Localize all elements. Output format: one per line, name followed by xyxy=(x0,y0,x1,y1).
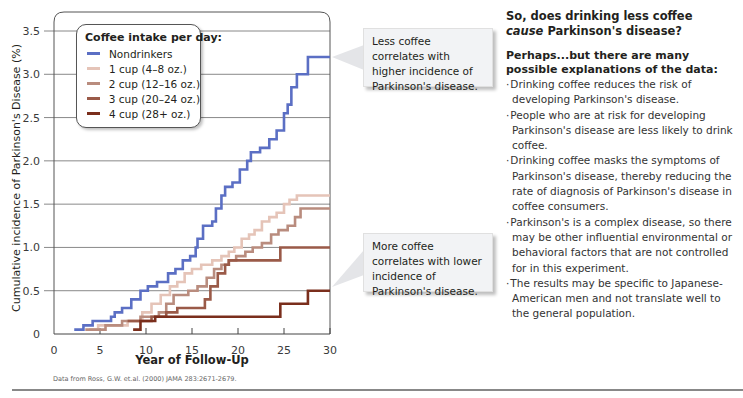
legend-item: Nondrinkers xyxy=(85,46,200,61)
x-tick-label: 0 xyxy=(51,344,58,357)
callout-less-coffee: Less coffee correlates with higher incid… xyxy=(363,28,493,87)
sidebar: So, does drinking less coffee cause Park… xyxy=(506,9,741,322)
legend-label: 2 cup (12–16 oz.) xyxy=(109,78,200,90)
legend-item: 2 cup (12–16 oz.) xyxy=(85,76,200,91)
explanations-list: Drinking coffee reduces the risk of deve… xyxy=(506,77,741,322)
callout-more-coffee: More coffee correlates with lower incide… xyxy=(363,233,493,292)
legend-item: 4 cup (28+ oz.) xyxy=(85,106,200,121)
callout-top-pointer xyxy=(332,45,364,70)
y-tick-label: 3.5 xyxy=(23,25,41,38)
y-axis-title: Cumulative incidence of Parkinson's Dise… xyxy=(10,44,23,312)
legend-swatch xyxy=(87,52,100,55)
y-tick-label: 1.5 xyxy=(23,198,41,211)
explanation-item: The results may be specific to Japanese-… xyxy=(506,276,741,322)
legend-swatch xyxy=(87,67,100,70)
sidebar-question: So, does drinking less coffee cause Park… xyxy=(506,9,741,39)
x-tick-label: 5 xyxy=(97,344,104,357)
source-citation: Data from Ross, G.W. et.al. (2000) JAMA … xyxy=(53,375,236,383)
y-axis-ticks: 00.51.01.52.02.53.03.5 xyxy=(23,25,41,341)
explanation-item: Parkinson's is a complex disease, so the… xyxy=(506,215,741,276)
divider xyxy=(12,389,743,391)
y-tick-label: 3.0 xyxy=(23,68,41,81)
x-tick-label: 30 xyxy=(323,344,337,357)
legend-swatch xyxy=(87,82,100,85)
emphasis-cause: cause xyxy=(506,24,543,38)
legend-swatch xyxy=(87,97,100,100)
explanation-item: Drinking coffee reduces the risk of deve… xyxy=(506,77,741,108)
legend-label: 3 cup (20–24 oz.) xyxy=(109,93,200,105)
legend-swatch xyxy=(87,112,100,115)
y-tick-label: 1.0 xyxy=(23,241,41,254)
explanation-item: Drinking coffee masks the symptoms of Pa… xyxy=(506,153,741,214)
legend-item: 1 cup (4–8 oz.) xyxy=(85,61,200,76)
legend-label: 4 cup (28+ oz.) xyxy=(109,108,190,120)
series-line-4 xyxy=(133,291,330,330)
y-tick-label: 2.5 xyxy=(23,112,41,125)
explanation-item: People who are at risk for developing Pa… xyxy=(506,108,741,154)
legend: Coffee intake per day: Nondrinkers1 cup … xyxy=(76,24,201,128)
callout-bottom-pointer xyxy=(332,250,364,287)
legend-label: Nondrinkers xyxy=(109,48,172,60)
y-tick-label: 0.5 xyxy=(23,285,41,298)
legend-item: 3 cup (20–24 oz.) xyxy=(85,91,200,106)
legend-label: 1 cup (4–8 oz.) xyxy=(109,63,187,75)
x-axis-title: Year of Follow-Up xyxy=(134,353,248,367)
x-tick-label: 25 xyxy=(277,344,291,357)
y-tick-label: 0 xyxy=(33,328,40,341)
sidebar-subheading: Perhaps...but there are many possible ex… xyxy=(506,49,741,77)
y-tick-label: 2.0 xyxy=(23,155,41,168)
legend-title: Coffee intake per day: xyxy=(85,31,200,44)
series-line-1 xyxy=(89,195,330,329)
